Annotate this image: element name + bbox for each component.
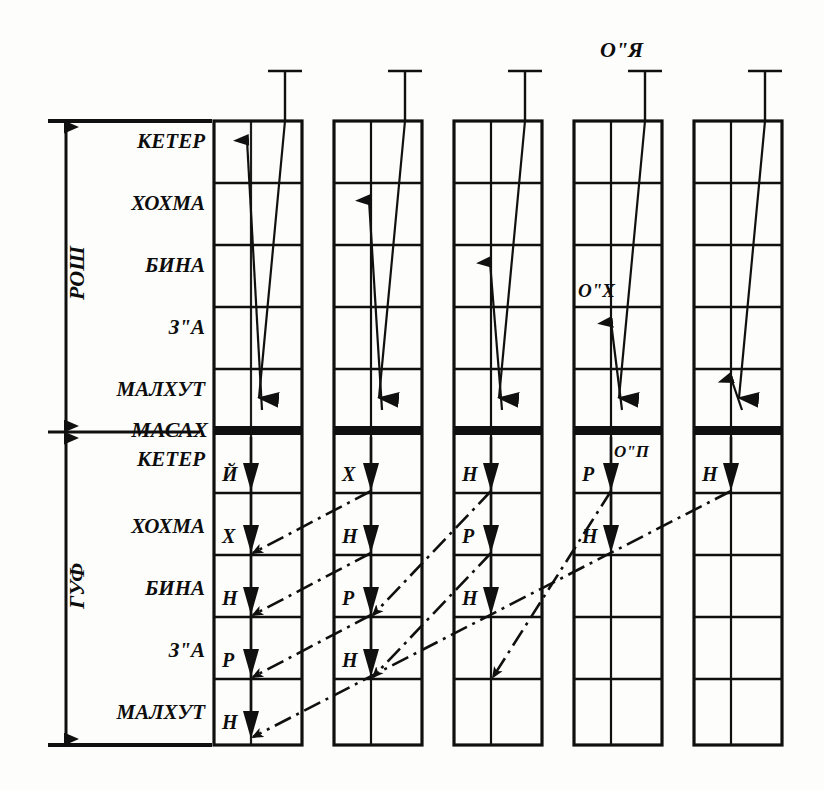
- cell-letter-c4-r2: Н: [582, 526, 598, 546]
- annotation-op: O"П: [614, 443, 649, 460]
- cell-letter-c1-r3: Н: [222, 588, 238, 608]
- cell-letter-c3-r3: Н: [462, 588, 478, 608]
- cell-letter-c3-r1: Н: [462, 464, 478, 484]
- cell-letter-c1-r2: Х: [222, 526, 235, 546]
- row-label-lower-bina: БИНА: [100, 578, 205, 599]
- row-label-upper-malxut: МАЛХУТ: [92, 379, 205, 400]
- column-3-descend-arrow: [499, 121, 525, 398]
- masax-bar-col-3: [454, 426, 542, 435]
- column-4-group: [574, 71, 662, 745]
- row-label-lower-keter: КЕТЕР: [100, 449, 205, 470]
- row-label-upper-bina: БИНА: [100, 255, 205, 276]
- masax-bar-col-1: [214, 426, 302, 435]
- bracket-label-guf: ГУФ: [66, 556, 88, 616]
- column-5-descend-arrow: [739, 121, 765, 398]
- row-label-upper-xoxma: ХОХМА: [100, 193, 205, 214]
- masax-bar-col-5: [694, 426, 782, 435]
- diagram-canvas: РОШ ГУФ КЕТЕР ХОХМА БИНА З"А МАЛХУТ МАСА…: [0, 0, 824, 790]
- row-label-lower-xoxma: ХОХМА: [100, 516, 205, 537]
- masax-bar-col-2: [334, 426, 422, 435]
- cell-letter-c1-r4: Р: [222, 650, 234, 670]
- column-4-descend-arrow: [619, 121, 645, 398]
- row-label-lower-malxut: МАЛХУТ: [92, 702, 205, 723]
- row-label-upper-za: З"А: [100, 317, 205, 338]
- cell-letter-c1-r5: Н: [222, 712, 238, 732]
- cell-letter-c5-r1: Н: [702, 464, 718, 484]
- cell-letter-c2-r1: Х: [342, 464, 355, 484]
- cell-letter-c2-r3: Р: [342, 588, 354, 608]
- row-label-lower-za: З"А: [100, 640, 205, 661]
- column-1-group: [214, 71, 302, 745]
- cell-letter-c1-r1: Й: [222, 464, 238, 484]
- masax-divider-label: МАСАХ: [86, 419, 208, 441]
- cell-letter-c4-r1: Р: [582, 464, 594, 484]
- column-2-descend-arrow: [379, 121, 405, 398]
- dashdot-c3b-to-c2b: [373, 553, 491, 677]
- annotation-oya: O"Я: [600, 39, 643, 61]
- cell-letter-c2-r2: Н: [342, 526, 358, 546]
- row-label-upper-keter: КЕТЕР: [100, 131, 205, 152]
- column-3-group: [454, 71, 542, 745]
- column-2-group: [334, 71, 422, 745]
- cell-letter-c2-r4: Н: [342, 650, 358, 670]
- column-4-ascend-arrow: [611, 322, 622, 410]
- cell-letter-c3-r2: Р: [462, 526, 474, 546]
- column-1-descend-arrow: [259, 121, 285, 398]
- masax-bar-col-4: [574, 426, 662, 435]
- masax-divider-group: [214, 426, 782, 435]
- annotation-ox: O"Х: [578, 281, 615, 300]
- bracket-label-rosh: РОШ: [66, 243, 88, 303]
- column-5-group: [694, 71, 782, 745]
